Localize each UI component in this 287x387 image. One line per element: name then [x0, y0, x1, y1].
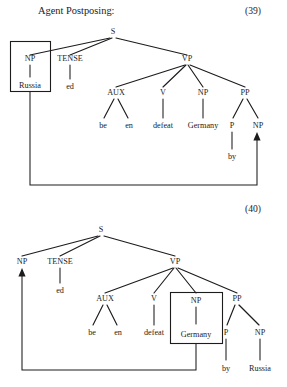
tree39-node-pp: PP	[240, 88, 250, 97]
tree39-node-np-subject: NP	[25, 54, 36, 63]
tree40-leaf-germany: Germany	[181, 330, 212, 339]
tree39-leaf-defeat: defeat	[153, 121, 174, 130]
tree39-branch-s-tense	[70, 38, 112, 55]
tree39-leaf-en: en	[125, 121, 133, 130]
tree39-leaf-russia: Russia	[19, 81, 41, 90]
example-number-40: (40)	[245, 203, 261, 215]
tree40-node-v: V	[151, 294, 157, 303]
tree40-leaf-ed: ed	[56, 286, 64, 295]
tree-39: S NP Russia TENSE ed VP AUX	[11, 27, 264, 185]
figure-container: Agent Postposing: (39) (40) S NP Russia …	[0, 0, 287, 387]
tree40-movement-arrowhead	[18, 268, 25, 277]
tree40-branch-s-tense	[60, 236, 100, 256]
tree40-branch-aux-en	[107, 305, 117, 325]
tree40-branch-vp-pp	[178, 268, 237, 293]
tree40-node-aux: AUX	[96, 294, 114, 303]
tree39-leaf-be: be	[99, 121, 107, 130]
tree40-leaf-defeat: defeat	[144, 328, 165, 337]
figure-title: Agent Postposing:	[38, 5, 115, 16]
tree40-node-vp: VP	[170, 257, 181, 266]
tree39-node-p: P	[230, 121, 235, 130]
tree40-leaf-russia: Russia	[249, 364, 271, 373]
tree39-node-tense: TENSE	[57, 54, 82, 63]
tree40-movement-arrow-path	[22, 275, 196, 370]
tree40-node-np-subject-empty: NP	[17, 257, 28, 266]
tree39-branch-vp-pp	[190, 65, 245, 87]
tree40-branch-vp-aux	[105, 268, 173, 293]
tree40-node-p: P	[224, 328, 229, 337]
tree39-movement-arrowhead	[253, 132, 260, 141]
tree39-branch-s-vp	[116, 38, 187, 55]
tree39-branch-aux-be	[104, 99, 114, 118]
tree39-node-s: S	[111, 27, 116, 36]
tree39-node-aux: AUX	[107, 88, 125, 97]
tree39-leaf-ed: ed	[66, 82, 74, 91]
tree40-node-tense: TENSE	[47, 257, 72, 266]
tree40-branch-s-np	[22, 236, 98, 256]
tree40-node-s: S	[99, 225, 104, 234]
tree39-leaf-germany: Germany	[188, 121, 219, 130]
tree40-leaf-be: be	[88, 328, 96, 337]
tree39-branch-vp-np	[188, 65, 203, 87]
syntax-tree-figure: Agent Postposing: (39) (40) S NP Russia …	[0, 0, 287, 387]
tree39-branch-aux-en	[118, 99, 128, 118]
tree39-node-v: V	[160, 88, 166, 97]
tree39-branch-pp-np	[247, 99, 258, 118]
tree40-leaf-en: en	[114, 328, 122, 337]
tree39-leaf-by: by	[228, 152, 237, 161]
tree39-movement-arrow-path	[30, 92, 257, 185]
tree40-branch-pp-np	[239, 305, 259, 325]
tree39-node-vp: VP	[182, 54, 193, 63]
tree39-branch-s-np	[30, 38, 110, 55]
tree40-node-np-object: NP	[191, 296, 202, 305]
tree40-leaf-by: by	[222, 364, 231, 373]
tree39-node-np-agent-empty: NP	[253, 121, 264, 130]
tree-40: S NP TENSE ed VP AUX be en	[17, 225, 272, 373]
tree40-node-np-agent: NP	[255, 328, 266, 337]
example-number-39: (39)	[245, 5, 261, 17]
tree40-branch-aux-be	[93, 305, 103, 325]
tree39-branch-pp-p	[233, 99, 243, 118]
tree40-node-pp: PP	[232, 294, 242, 303]
tree40-branch-s-vp	[104, 236, 175, 256]
tree40-branch-pp-p	[227, 305, 235, 325]
tree39-node-np-object: NP	[198, 88, 209, 97]
